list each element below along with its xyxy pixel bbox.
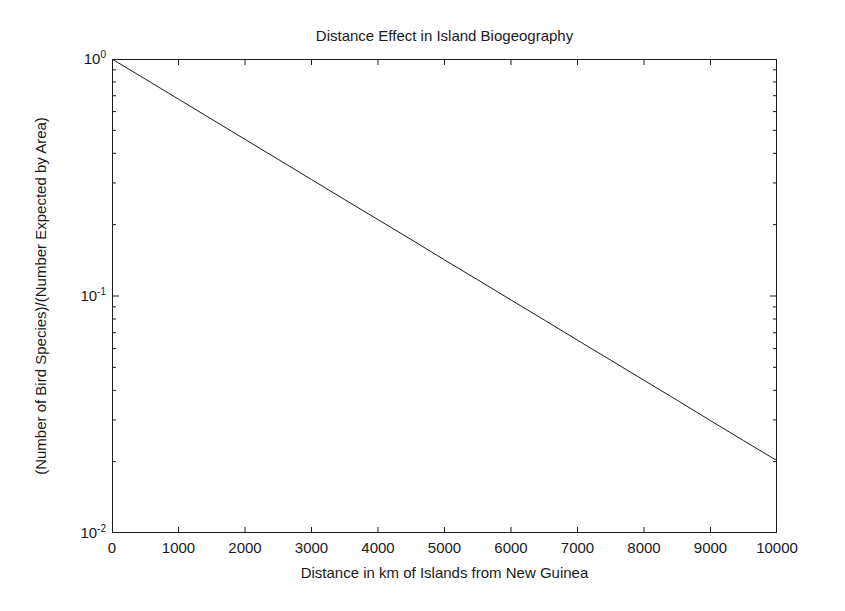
x-axis-ticks — [113, 59, 777, 533]
x-tick-label: 5000 — [428, 540, 461, 556]
x-tick-label: 0 — [108, 540, 116, 556]
x-axis-label: Distance in km of Islands from New Guine… — [112, 564, 777, 582]
figure-canvas: Distance Effect in Island Biogeography 1… — [0, 0, 845, 611]
y-axis-label: (Number of Bird Species)/(Number Expecte… — [30, 59, 52, 533]
y-tick-exponent: 0 — [100, 49, 106, 60]
y-tick-mantissa: 10 — [80, 287, 97, 304]
data-series-group — [112, 59, 777, 461]
x-tick-label: 9000 — [694, 540, 727, 556]
y-tick-exponent: -1 — [97, 286, 106, 297]
x-tick-label: 10000 — [756, 540, 798, 556]
axis-frame — [113, 60, 777, 533]
y-tick-label: 10-2 — [80, 525, 106, 540]
x-tick-label: 7000 — [561, 540, 594, 556]
chart-title: Distance Effect in Island Biogeography — [112, 27, 777, 45]
x-axis-tick-labels: 0100020003000400050006000700080009000100… — [112, 540, 777, 560]
plot-svg — [112, 59, 777, 533]
x-tick-label: 6000 — [494, 540, 527, 556]
y-tick-label: 10-1 — [80, 288, 106, 303]
plot-area — [112, 59, 777, 533]
x-tick-label: 8000 — [627, 540, 660, 556]
y-tick-mantissa: 10 — [80, 524, 97, 541]
y-tick-label: 100 — [84, 51, 106, 66]
y-tick-mantissa: 10 — [84, 50, 101, 67]
y-axis-ticks — [112, 60, 777, 533]
x-tick-label: 4000 — [361, 540, 394, 556]
x-tick-label: 3000 — [295, 540, 328, 556]
series-line — [112, 59, 777, 461]
x-tick-label: 1000 — [162, 540, 195, 556]
y-tick-exponent: -2 — [97, 523, 106, 534]
x-tick-label: 2000 — [228, 540, 261, 556]
